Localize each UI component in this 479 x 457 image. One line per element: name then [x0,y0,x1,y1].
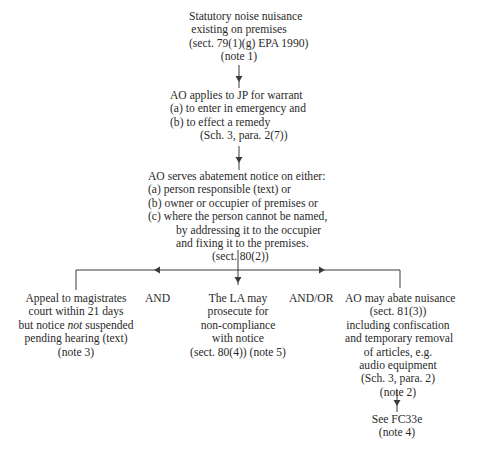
prosecute-line-4: with notice [188,332,288,345]
abate-line-3: including confiscation [345,319,451,332]
appeal-line-2: court within 21 days [17,305,135,318]
appeal-line-3: but notice not suspended [17,319,135,332]
prosecute-line-1: The LA may [188,292,288,305]
left-arrowhead [154,267,160,274]
abate-line-8: (note 2) [345,386,451,399]
notice-node: AO serves abatement notice on either: (a… [148,170,327,264]
abate-line-1: AO may abate nuisance [345,292,451,305]
warrant-line-1: AO applies to JP for warrant [170,89,306,102]
warrant-node: AO applies to JP for warrant (a) to ente… [170,89,306,143]
appeal-line-3-pre: but notice [19,319,68,332]
abate-line-4: and temporary removal [345,332,451,345]
start-line-1: Statutory noise nuisance [189,10,289,23]
notice-line-3: (b) owner or occupier of premises or [148,197,327,210]
notice-line-4: (c) where the person cannot be named, [148,210,327,223]
connector-andor-label: AND/OR [289,292,333,305]
warrant-line-4: (Sch. 3, para. 2(7)) [170,129,306,142]
prosecute-line-3: non-compliance [188,319,288,332]
appeal-line-5: (note 3) [17,346,135,359]
notice-line-1: AO serves abatement notice on either: [148,170,327,183]
start-line-4: (note 1) [189,50,289,63]
see-node: See FC33e (note 4) [357,413,437,440]
abate-line-7: (Sch. 3, para. 2) [345,372,451,385]
start-line-3: (sect. 79(1)(g) EPA 1990) [189,37,289,50]
prosecute-node: The LA may prosecute for non-compliance … [188,292,288,359]
notice-line-7: (sect. 80(2)) [148,250,327,263]
right-arrowhead [319,267,325,274]
notice-line-2: (a) person responsible (text) or [148,183,327,196]
appeal-line-3-post: suspended [82,319,133,332]
connector-and-label: AND [145,292,170,305]
appeal-line-3-emphasis: not [67,319,82,332]
appeal-line-4: pending hearing (text) [17,332,135,345]
see-line-1: See FC33e [357,413,437,426]
warrant-line-3: (b) to effect a remedy [170,116,306,129]
prosecute-line-2: prosecute for [188,305,288,318]
see-line-2: (note 4) [357,426,437,439]
prosecute-line-5: (sect. 80(4)) (note 5) [188,346,288,359]
abate-line-6: audio equipment [345,359,451,372]
abate-line-2: (sect. 81(3)) [345,305,451,318]
abate-node: AO may abate nuisance (sect. 81(3)) incl… [345,292,451,399]
notice-line-5: by addressing it to the occupier [148,224,327,237]
start-line-2: existing on premises [189,23,289,36]
start-node: Statutory noise nuisance existing on pre… [189,10,289,64]
appeal-node: Appeal to magistrates court within 21 da… [17,292,135,359]
warrant-line-2: (a) to enter in emergency and [170,102,306,115]
notice-line-6: and fixing it to the premises. [148,237,327,250]
abate-line-5: of articles, e.g. [345,346,451,359]
appeal-line-1: Appeal to magistrates [17,292,135,305]
